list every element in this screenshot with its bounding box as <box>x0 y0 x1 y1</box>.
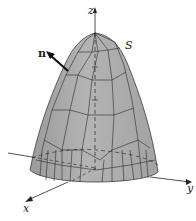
paraboloid-diagram <box>0 0 196 221</box>
normal-label: n <box>38 48 46 59</box>
axis-back-left <box>8 153 32 157</box>
surface-label: S <box>125 40 133 51</box>
z-axis-label: z <box>88 5 94 16</box>
y-axis <box>150 177 190 182</box>
paraboloid-figure: z S n y x <box>0 0 196 221</box>
x-axis <box>28 182 68 200</box>
x-axis-label: x <box>23 203 29 214</box>
y-axis-label: y <box>187 183 193 194</box>
